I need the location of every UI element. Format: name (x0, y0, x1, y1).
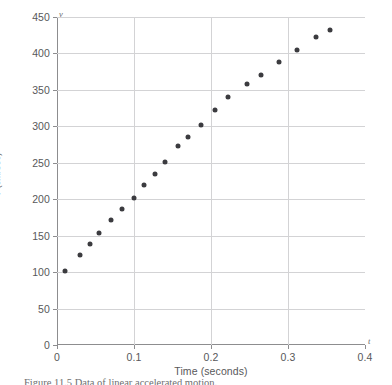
data-point (142, 183, 147, 188)
y-tick-mark (53, 126, 57, 127)
x-tick-label: 0.1 (127, 351, 142, 363)
y-tick-mark (53, 53, 57, 54)
y-tick-label: 0 (0, 339, 50, 351)
y-tick-mark (53, 163, 57, 164)
data-point (97, 231, 102, 236)
data-point (78, 253, 83, 258)
data-point (108, 217, 113, 222)
x-tick-label: 0 (54, 351, 60, 363)
x-tick-label: 0.3 (281, 351, 296, 363)
x-tick-mark (57, 345, 58, 349)
x-axis-variable-symbol: t (368, 336, 370, 346)
y-axis-variable-symbol: v (59, 9, 63, 19)
y-tick-label: 50 (0, 303, 50, 315)
plot-area (57, 17, 365, 345)
x-tick-label: 0.4 (358, 351, 373, 363)
y-tick-label: 350 (0, 84, 50, 96)
data-point (259, 72, 264, 77)
data-point (212, 108, 217, 113)
x-tick-mark (365, 345, 366, 349)
figure-container: 050100150200250300350400450 00.10.20.30.… (0, 0, 392, 385)
x-tick-mark (288, 345, 289, 349)
y-axis-title: v (cm/sec) (0, 153, 2, 197)
x-tick-label: 0.2 (204, 351, 219, 363)
data-point (120, 207, 125, 212)
y-tick-mark (53, 272, 57, 273)
x-tick-mark (211, 345, 212, 349)
y-axis-line (57, 17, 58, 345)
y-tick-label: 100 (0, 266, 50, 278)
data-point (88, 241, 93, 246)
gridline-vertical (211, 17, 212, 345)
data-point (295, 47, 300, 52)
y-tick-label: 450 (0, 11, 50, 23)
y-tick-mark (53, 309, 57, 310)
data-point (152, 171, 157, 176)
data-point (276, 60, 281, 65)
y-tick-label: 400 (0, 47, 50, 59)
data-point (185, 134, 190, 139)
y-tick-mark (53, 199, 57, 200)
y-tick-label: 150 (0, 230, 50, 242)
data-point (162, 160, 167, 165)
data-point (225, 95, 230, 100)
gridline-vertical (288, 17, 289, 345)
y-tick-mark (53, 90, 57, 91)
y-tick-mark (53, 236, 57, 237)
y-tick-label: 300 (0, 120, 50, 132)
x-tick-mark (134, 345, 135, 349)
data-point (198, 122, 203, 127)
data-point (314, 34, 319, 39)
data-point (62, 268, 67, 273)
x-axis-title: Time (seconds) (57, 365, 365, 377)
data-point (175, 144, 180, 149)
data-point (328, 28, 333, 33)
figure-caption: Figure 11.5 Data of linear accelerated m… (24, 377, 217, 385)
data-point (245, 82, 250, 87)
data-point (132, 195, 137, 200)
y-tick-label: 250 (0, 157, 50, 169)
y-tick-mark (53, 17, 57, 18)
y-tick-label: 200 (0, 193, 50, 205)
gridline-vertical (134, 17, 135, 345)
